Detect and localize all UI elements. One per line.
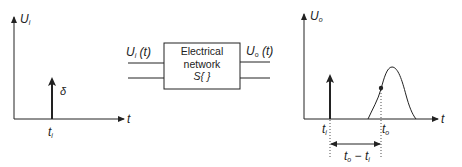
network-line-1: Electrical: [164, 45, 240, 58]
input-y-subscript: i: [29, 19, 31, 26]
delay-minus-sign: −: [351, 149, 365, 163]
to-subscript: o: [385, 129, 389, 136]
network-line-2: network: [164, 58, 240, 71]
uo-subscript: o: [255, 51, 259, 58]
input-y-axis-label: Ui: [20, 13, 30, 26]
response-time-label: to: [382, 123, 389, 136]
uo-symbol: U: [246, 44, 255, 58]
output-x-axis-label: t: [441, 113, 444, 125]
network-output-label: Uo (t): [246, 45, 273, 58]
input-impulse-time-label: ti: [48, 126, 53, 139]
delay-ti-subscript: i: [368, 156, 370, 163]
output-y-axis-label: Uo: [310, 10, 323, 23]
impulse-delta-label: δ: [60, 86, 66, 97]
input-x-axis-label: t: [127, 113, 130, 125]
response-curve: [368, 67, 416, 119]
out-ti-subscript: i: [325, 129, 327, 136]
response-dot: [379, 86, 383, 90]
ui-symbol: U: [126, 45, 135, 59]
network-input-label: Ui (t): [126, 46, 151, 59]
input-plot: [14, 17, 124, 119]
ti-subscript: i: [51, 132, 53, 139]
delay-label: to − ti: [344, 150, 370, 163]
diagram-canvas: [0, 0, 462, 167]
output-impulse-time-label: ti: [322, 123, 327, 136]
output-y-subscript: o: [319, 16, 323, 23]
output-y-symbol: U: [310, 9, 319, 23]
ui-subscript: i: [135, 52, 137, 59]
network-box-text: Electrical network S{ }: [164, 45, 240, 83]
input-y-symbol: U: [20, 12, 29, 26]
network-line-3: S{ }: [164, 70, 240, 83]
ui-argument: (t): [140, 45, 151, 59]
uo-argument: (t): [262, 44, 273, 58]
